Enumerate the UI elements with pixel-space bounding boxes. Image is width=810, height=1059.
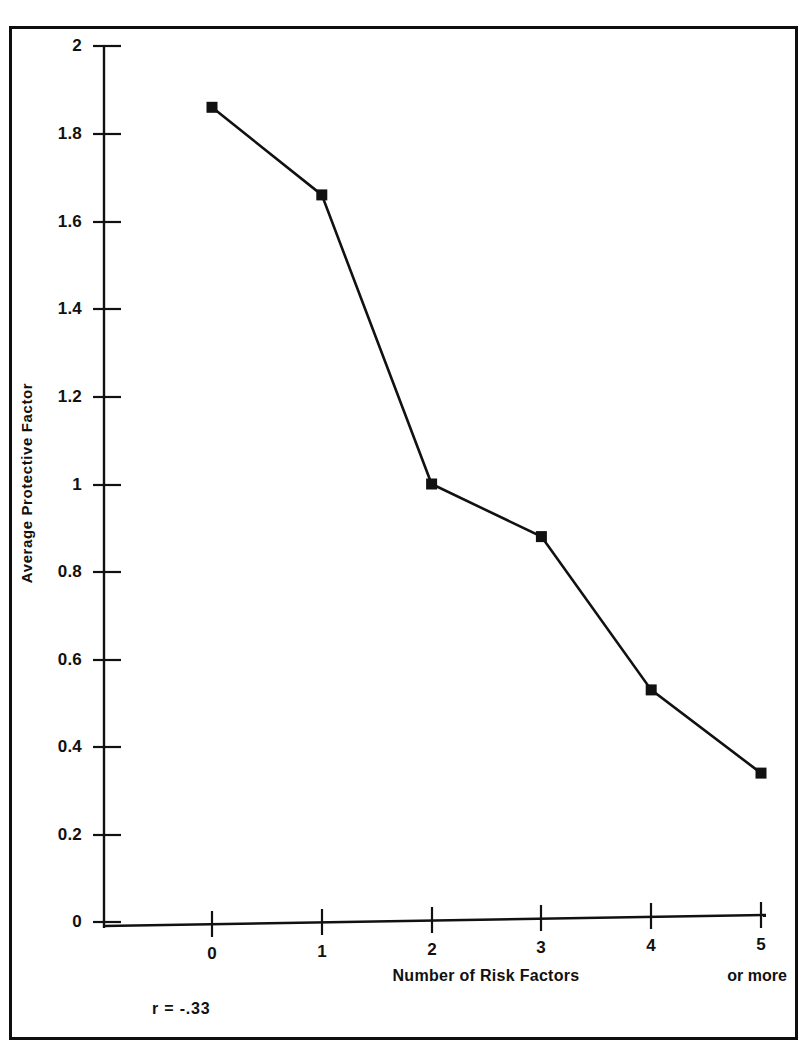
figure-root: 2 1.8 1.6 1.4 1.2 1 0.8 0.6 0.4 0.2 0 0 …: [0, 0, 810, 1059]
figure-border-frame: [9, 26, 798, 1040]
